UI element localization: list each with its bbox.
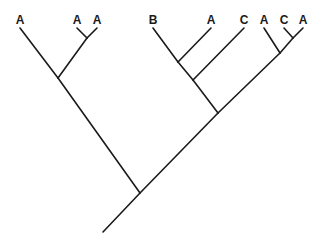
branch-N_right-N_ACA	[218, 53, 280, 113]
leaf-label-6: C	[240, 13, 249, 27]
branch-N_CA-L8	[284, 28, 293, 38]
leaf-label-8: C	[280, 13, 289, 27]
leaf-label-3: A	[93, 13, 102, 27]
branch-N_CA-L9	[293, 28, 303, 38]
branch-N_left-L1	[20, 28, 58, 78]
branch-N_AA-L2	[77, 28, 87, 38]
branch-N_ACA-N_CA	[280, 38, 293, 53]
leaf-label-2: A	[73, 13, 82, 27]
cladogram: AAABACACA	[0, 0, 323, 242]
leaf-label-1: A	[16, 13, 25, 27]
branch-N_left-N_AA	[58, 38, 87, 78]
branch-N_BAC-N_BA	[178, 62, 193, 80]
branch-N_BA-L5	[178, 28, 211, 62]
branch-N_BA-L4	[153, 28, 178, 62]
leaf-label-5: A	[207, 13, 216, 27]
leaf-label-9: A	[299, 13, 308, 27]
leaf-label-4: B	[149, 13, 158, 27]
branch-N_right-N_BAC	[193, 80, 218, 113]
leaf-label-7: A	[260, 13, 269, 27]
leaf-labels: AAABACACA	[16, 13, 308, 27]
tree-branches	[20, 28, 303, 232]
branch-N_AA-L3	[87, 28, 97, 38]
branch-N_ACA-L7	[264, 28, 280, 53]
root-stem	[103, 193, 140, 232]
branch-N_BAC-L6	[193, 28, 244, 80]
branch-N_root-N_left	[58, 78, 140, 193]
branch-N_root-N_right	[140, 113, 218, 193]
